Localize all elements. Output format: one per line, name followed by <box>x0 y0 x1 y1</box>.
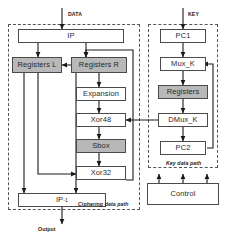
block-control-label: Control <box>171 190 196 198</box>
key-input-label: KEY <box>188 11 199 17</box>
block-xor48[interactable]: Xor48 <box>76 113 126 127</box>
key-data-path-label: Key data path <box>166 160 201 166</box>
block-xor32[interactable]: Xor32 <box>76 166 126 180</box>
output-label: Output <box>38 226 56 232</box>
block-registers-l-label: Registers L <box>17 61 56 69</box>
block-expansion[interactable]: Expansion <box>76 87 126 101</box>
block-pc2-label: PC2 <box>176 144 191 152</box>
block-ip-inverse-label: IP <box>56 196 63 204</box>
block-ip-label: IP <box>67 32 74 40</box>
block-dmux-k-label: DMux_K <box>168 116 197 124</box>
block-registers-k[interactable]: Registers <box>158 85 208 99</box>
block-registers-l[interactable]: Registers L <box>12 57 62 73</box>
block-dmux-k[interactable]: DMux_K <box>158 113 208 127</box>
ciphering-data-path-label: Ciphering data path <box>78 201 129 207</box>
block-mux-k-label: Mux_K <box>171 60 195 68</box>
block-pc2[interactable]: PC2 <box>160 141 206 155</box>
data-input-label: DATA <box>68 11 82 17</box>
block-mux-k[interactable]: Mux_K <box>160 57 206 71</box>
block-registers-r-label: Registers R <box>79 61 119 69</box>
block-expansion-label: Expansion <box>83 90 119 98</box>
block-pc1-label: PC1 <box>176 32 191 40</box>
block-ip[interactable]: IP <box>18 29 124 43</box>
block-sbox-label: Sbox <box>92 142 110 150</box>
des-architecture-diagram: IP Registers L Registers R Expansion Xor… <box>0 0 227 237</box>
block-xor32-label: Xor32 <box>91 169 112 177</box>
block-xor48-label: Xor48 <box>91 116 112 124</box>
block-control[interactable]: Control <box>147 183 219 205</box>
block-sbox[interactable]: Sbox <box>76 139 126 153</box>
block-registers-r[interactable]: Registers R <box>71 57 127 73</box>
block-pc1[interactable]: PC1 <box>160 29 206 43</box>
block-registers-k-label: Registers <box>167 88 200 96</box>
